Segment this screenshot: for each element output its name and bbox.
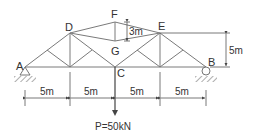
load-label: P=50kN [95,121,131,132]
support-b-roller [195,67,217,82]
dimension-height: 5m [160,33,243,67]
member-DF [70,22,115,33]
node-label-a: A [16,60,24,72]
node-label-g: G [111,45,120,57]
node-label-c: C [117,67,125,79]
load-arrow: P=50kN [95,67,131,132]
span-label-2: 5m [84,86,98,97]
span-label-4: 5m [175,86,189,97]
height-label: 5m [229,45,243,56]
node-label-f: F [111,8,118,20]
node-label-e: E [158,20,165,32]
node-label-b: B [208,56,215,68]
member-DG [70,33,115,41]
member-left-sub1 [47,50,70,67]
member-left-sub2 [70,50,92,67]
node-label-d: D [65,21,73,33]
span-label-1: 5m [40,86,54,97]
span-label-3: 5m [130,86,144,97]
truss-diagram: 3m 5m A B C D E F G 5m 5m 5m 5m [0,0,255,139]
arrow-down-icon [112,110,118,116]
member-right-sub1 [137,50,160,67]
member-right-sub2 [160,50,183,67]
fg-height-label: 3m [129,26,143,37]
